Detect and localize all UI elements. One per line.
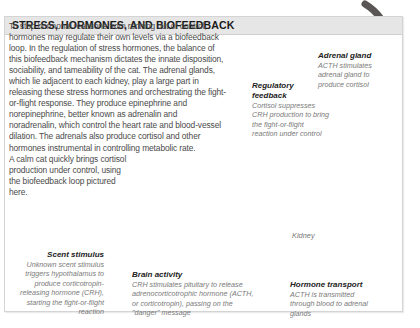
body-paragraph: A calm cat quickly brings cortisol produ… — [9, 154, 129, 198]
kidney-label: Kidney — [292, 231, 315, 240]
body-text: To stop hormonal reactions from running … — [9, 21, 227, 198]
callout-text: ACTH is transmitted through blood to adr… — [290, 290, 368, 318]
body-paragraph: To stop hormonal reactions from running … — [9, 21, 227, 154]
callout-heading: Regulatory feedback — [252, 81, 330, 101]
callout-heading: Hormone transport — [290, 280, 380, 290]
callout-text: CRH stimulates pituitary to release adre… — [132, 280, 253, 317]
callout-hormone-transport: Hormone transport ACTH is transmitted th… — [290, 280, 380, 318]
callout-brain-activity: Brain activity CRH stimulates pituitary … — [132, 270, 260, 318]
callout-heading: Brain activity — [132, 270, 260, 280]
callout-scent-stimulus: Scent stimulus Unknown scent stimulus tr… — [6, 250, 104, 316]
callout-text: Unknown scent stimulus triggers hypothal… — [20, 260, 104, 316]
callout-regulatory-feedback: Regulatory feedback Cortisol suppresses … — [252, 81, 330, 139]
callout-text: Cortisol suppresses CRH production to br… — [252, 101, 329, 138]
callout-heading: Scent stimulus — [6, 250, 104, 260]
callout-heading: Adrenal gland — [318, 51, 390, 61]
